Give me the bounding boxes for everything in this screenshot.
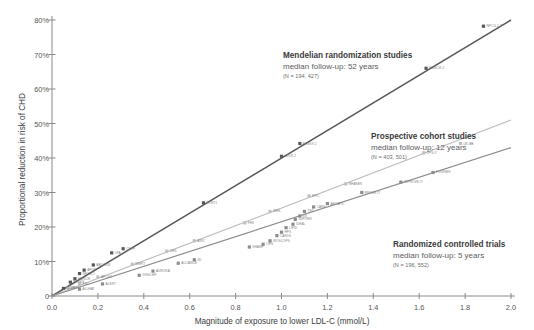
y-axis-title: Proportional reduction in risk of CHD (18, 70, 27, 250)
data-point-label: SORT1 (206, 201, 217, 205)
x-tick-label: 1.0 (276, 303, 286, 312)
x-axis-title: Magnitude of exposure to lower LDL-C (mm… (52, 317, 512, 326)
data-point-marker (399, 181, 402, 184)
data-point-marker (62, 287, 65, 290)
data-point-label: PROVE-IT (365, 191, 380, 195)
data-point-label: CETP (126, 247, 135, 251)
data-point-label: APOE (87, 268, 96, 272)
data-point-label: PSC (83, 282, 90, 286)
data-point-label: TNT (307, 209, 313, 213)
data-point-label: LPA (115, 251, 121, 255)
data-point-label: ALLIANCE (181, 261, 197, 265)
data-point-label: LDLR-2 (285, 154, 296, 158)
data-point-marker (284, 226, 287, 229)
annotation-title: Prospective cohort studies (371, 131, 476, 142)
data-point-label: IMPROVE-IT (404, 180, 423, 184)
data-point-marker (307, 194, 310, 197)
y-tick-label: 70% (34, 50, 49, 59)
x-tick-label: 0.6 (185, 303, 195, 312)
data-point-marker (312, 205, 315, 208)
annotation-prospective-cohort: Prospective cohort studies median follow… (371, 131, 476, 162)
data-point-marker (243, 221, 246, 224)
data-point-label: LIPID (289, 226, 297, 230)
data-point-label: WHS (273, 209, 281, 213)
data-point-marker (268, 210, 271, 213)
data-point-label: FHS (248, 221, 255, 225)
data-point-label: JUPITER (298, 217, 312, 221)
data-point-marker (177, 262, 180, 265)
data-point-label: CPS-II (427, 151, 437, 155)
data-point-label: EPIC (312, 194, 320, 198)
data-point-marker (96, 275, 99, 278)
data-point-marker (110, 251, 113, 254)
data-point-marker (131, 263, 134, 266)
data-point-marker (431, 171, 434, 174)
x-tick-label: 2.0 (506, 303, 516, 312)
x-tick-label: 1.6 (414, 303, 424, 312)
x-tick-label: 0.8 (230, 303, 240, 312)
data-point-marker (294, 218, 297, 221)
data-point-label: ALERT (105, 282, 115, 286)
data-point-marker (122, 247, 125, 250)
data-point-marker (69, 281, 72, 284)
annotation-mendelian-randomization: Mendelian randomization studies median f… (283, 50, 412, 81)
data-point-label: SHARP (252, 245, 263, 249)
data-point-label: CHS (170, 249, 177, 253)
x-tick-label: 1.4 (368, 303, 378, 312)
data-point-label: 4D (197, 258, 201, 262)
x-tick-label: 1.8 (460, 303, 470, 312)
data-point-marker (138, 274, 141, 277)
y-tick-label: 50% (34, 119, 49, 128)
data-point-marker (303, 210, 306, 213)
data-point-label: PCSK9-2 (303, 142, 317, 146)
data-point-label: HMGCR-2 (429, 66, 444, 70)
data-point-label: NPC1L1-2 (486, 24, 501, 28)
data-point-label: ALLHAT (83, 287, 95, 291)
data-point-label: AFCAPS (330, 202, 343, 206)
data-point-label: FOURIER (436, 170, 451, 174)
data-point-label: UK-BB (464, 142, 474, 146)
data-point-label: CARDS (280, 234, 291, 238)
y-tick-label: 20% (34, 223, 49, 232)
data-point-marker (360, 191, 363, 194)
data-point-marker (280, 155, 283, 158)
x-tick-label: 0.2 (93, 303, 103, 312)
y-tick-label: 30% (34, 188, 49, 197)
data-point-marker (344, 182, 347, 185)
data-point-marker (482, 25, 485, 28)
data-point-label: AURORA (156, 269, 170, 273)
annotation-randomized-controlled-trials: Randomized controlled trials median foll… (393, 239, 505, 270)
x-tick-label: 0.4 (139, 303, 149, 312)
data-point-label: ERFC (71, 286, 80, 290)
data-point-label: WOSCOPS (273, 239, 290, 243)
data-point-label: HMGCR (78, 277, 90, 281)
data-point-marker (326, 202, 329, 205)
y-tick-label: 0 (45, 292, 49, 301)
data-point-marker (78, 272, 81, 275)
annotation-sample-size: (N = 403, 501) (371, 153, 476, 162)
y-tick-label: 10% (34, 257, 49, 266)
annotation-title: Randomized controlled trials (393, 239, 505, 250)
x-tick-label: 1.2 (322, 303, 332, 312)
x-tick-label: 0.0 (47, 303, 57, 312)
data-point-label: NHANES (349, 182, 363, 186)
ldl-c-chd-scatter-chart: Magnitude of exposure to lower LDL-C (mm… (0, 0, 534, 330)
data-point-marker (151, 270, 154, 273)
data-point-label: GISSI-HF (142, 273, 156, 277)
data-point-marker (101, 282, 104, 285)
annotation-title: Mendelian randomization studies (283, 50, 412, 61)
data-point-marker (424, 67, 427, 70)
data-point-label: CARE (317, 205, 326, 209)
data-point-marker (275, 234, 278, 237)
data-point-marker (165, 250, 168, 253)
data-point-label: ARIC (197, 239, 205, 243)
data-point-marker (92, 263, 95, 266)
data-point-label: LIPS (266, 242, 273, 246)
annotation-sample-size: (N = 196, 552) (393, 261, 505, 270)
annotation-sample-size: (N = 194, 427) (283, 72, 412, 81)
annotation-subtitle: median follow-up: 12 years (371, 142, 476, 153)
data-point-label: 4S (303, 214, 307, 218)
y-tick-label: 40% (34, 154, 49, 163)
y-tick-label: 80% (34, 16, 49, 25)
annotation-subtitle: median follow-up: 52 years (283, 61, 412, 72)
